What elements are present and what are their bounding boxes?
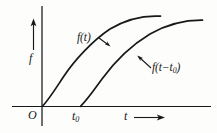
origin-label: O [28, 109, 37, 121]
curve-label-f-of-t: f(t) [77, 32, 91, 44]
f-axis-arrow [31, 19, 37, 51]
tick-label-t0: t0 [72, 110, 79, 124]
figure-container: f(t) f(t−t0) O t0 t f [0, 0, 217, 133]
curve-label-f-of-t-minus-t0-main: f(t−t [152, 61, 173, 73]
f-axis-label: f [29, 52, 32, 64]
leader-f-of-t-minus-t0 [137, 55, 151, 68]
leader-f-of-t [99, 38, 111, 47]
t-axis-label: t [124, 110, 127, 122]
curve-f-of-t-minus-t0 [81, 20, 203, 106]
t-axis-direction-arrow [134, 114, 165, 120]
tick-label-t0-sub: 0 [75, 115, 79, 124]
curve-label-f-of-t-minus-t0: f(t−t0) [152, 62, 180, 75]
curve-label-f-of-t-minus-t0-close: ) [177, 61, 181, 73]
